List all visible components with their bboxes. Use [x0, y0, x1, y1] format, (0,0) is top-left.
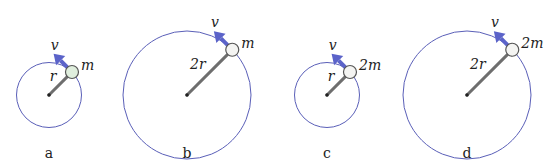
mass-label: m: [241, 35, 254, 51]
radius-label: r: [50, 68, 58, 84]
panel-label: b: [183, 145, 192, 161]
panel-label: d: [463, 145, 472, 161]
mass-ball: [506, 43, 519, 56]
center-pivot: [465, 93, 469, 97]
mass-ball: [343, 66, 356, 79]
radius-label: 2r: [469, 56, 487, 72]
mass-label: 2m: [358, 57, 381, 73]
mass-label: m: [81, 57, 94, 73]
panel-label: a: [45, 145, 53, 161]
velocity-label: v: [329, 37, 337, 53]
center-pivot: [47, 93, 51, 97]
radius-label: r: [328, 68, 336, 84]
circular-motion-diagram: vmravm2rbv2mrcv2m2rd: [0, 0, 552, 168]
panel-d: v2m2rd: [403, 14, 543, 161]
center-pivot: [325, 93, 329, 97]
panel-c: v2mrc: [295, 37, 382, 161]
panel-label: c: [323, 145, 331, 161]
velocity-label: v: [491, 14, 499, 30]
panel-b: vm2rb: [123, 14, 255, 161]
mass-ball: [226, 43, 239, 56]
velocity-label: v: [211, 14, 219, 30]
panel-a: vmra: [17, 37, 95, 161]
radius-label: 2r: [189, 56, 207, 72]
mass-label: 2m: [520, 35, 543, 51]
velocity-label: v: [51, 37, 59, 53]
mass-ball: [65, 66, 78, 79]
center-pivot: [185, 93, 189, 97]
